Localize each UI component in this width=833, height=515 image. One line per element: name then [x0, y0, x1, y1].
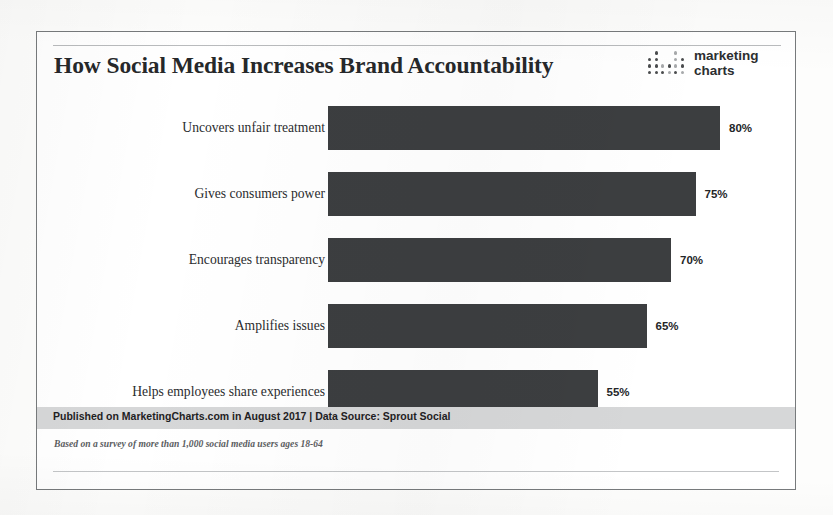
bar	[328, 304, 647, 348]
chart-footer: Published on MarketingCharts.com in Augu…	[37, 403, 795, 489]
bar-value-label: 55%	[607, 386, 630, 398]
bar-chart-plot-area: Uncovers unfair treatment80%Gives consum…	[37, 94, 795, 404]
bar-category-label: Amplifies issues	[235, 318, 325, 334]
methodology-note: Based on a survey of more than 1,000 soc…	[54, 438, 323, 449]
bar	[328, 106, 720, 150]
marketing-charts-logo: marketing charts	[648, 49, 759, 78]
scanned-page: How Social Media Increases Brand Account…	[0, 0, 833, 515]
header-divider	[53, 45, 781, 46]
bar-row: Gives consumers power75%	[37, 172, 795, 216]
bar-row: Encourages transparency70%	[37, 238, 795, 282]
page-title: How Social Media Increases Brand Account…	[54, 52, 553, 79]
logo-line-2: charts	[694, 64, 759, 79]
logo-wordmark: marketing charts	[694, 49, 759, 78]
footer-divider	[53, 471, 779, 472]
bar-row: Uncovers unfair treatment80%	[37, 106, 795, 150]
bar-value-label: 75%	[705, 188, 728, 200]
logo-dot-matrix-icon	[648, 51, 687, 76]
bar-category-label: Uncovers unfair treatment	[182, 120, 325, 136]
bar	[328, 238, 671, 282]
bar-category-label: Gives consumers power	[194, 186, 325, 202]
source-text: Published on MarketingCharts.com in Augu…	[53, 410, 451, 422]
chart-header: How Social Media Increases Brand Account…	[37, 32, 795, 94]
bar-category-label: Encourages transparency	[189, 252, 325, 268]
bar-row: Amplifies issues65%	[37, 304, 795, 348]
bar-category-label: Helps employees share experiences	[132, 384, 325, 400]
bar-value-label: 65%	[656, 320, 679, 332]
bar	[328, 172, 696, 216]
bar-value-label: 70%	[680, 254, 703, 266]
logo-line-1: marketing	[694, 49, 759, 64]
chart-frame: How Social Media Increases Brand Account…	[36, 31, 796, 490]
bar-value-label: 80%	[729, 122, 752, 134]
